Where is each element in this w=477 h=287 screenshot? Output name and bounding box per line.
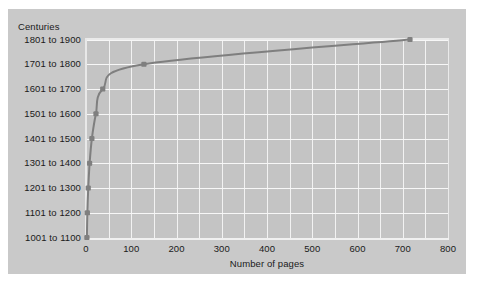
data-point-marker [86,185,91,190]
data-point-marker [100,86,105,91]
data-series-curve [0,0,477,287]
data-point-marker [84,235,89,240]
chart-figure: Centuries 1001 to 11001101 to 12001201 t… [0,0,477,287]
data-point-marker [141,62,146,67]
data-point-marker [93,111,98,116]
data-point-marker [407,37,412,42]
data-point-marker [89,136,94,141]
data-point-marker [87,161,92,166]
series-line [87,40,410,238]
data-point-marker [85,210,90,215]
